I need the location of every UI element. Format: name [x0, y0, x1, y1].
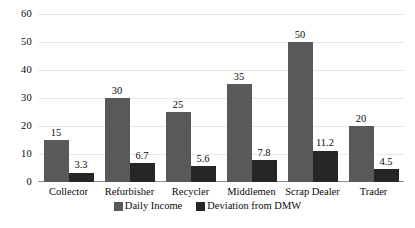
bar-slot: 3.3: [69, 14, 94, 182]
legend-label: Deviation from DMW: [207, 201, 301, 212]
y-axis-tick-label: 20: [21, 121, 32, 132]
y-axis-tick-label: 60: [21, 9, 32, 20]
legend-swatch-icon: [196, 202, 205, 211]
bar-slot: 5.6: [191, 14, 216, 182]
bar-value-label: 3.3: [74, 160, 87, 171]
bar-value-label: 7.8: [257, 148, 270, 159]
x-axis-category-label: Collector: [38, 184, 99, 200]
bar[interactable]: [105, 98, 130, 182]
bar-value-label: 4.5: [379, 157, 392, 168]
bar-value-label: 25: [173, 100, 184, 111]
bar[interactable]: [227, 84, 252, 182]
x-axis-category-label: Trader: [343, 184, 404, 200]
y-axis-tick-label: 50: [21, 37, 32, 48]
bar-slot: 4.5: [374, 14, 399, 182]
chart-legend: Daily IncomeDeviation from DMW: [0, 201, 415, 212]
legend-label: Daily Income: [125, 201, 182, 212]
bar-slot: 6.7: [130, 14, 155, 182]
bar[interactable]: [252, 160, 277, 182]
legend-item[interactable]: Daily Income: [114, 201, 182, 212]
plot-area: 153.3306.7255.6357.85011.2204.5: [38, 14, 404, 182]
bar-value-label: 20: [356, 114, 367, 125]
bar-group: 306.7: [99, 14, 160, 182]
x-axis-category-label: Scrap Dealer: [282, 184, 343, 200]
bar-value-label: 35: [234, 72, 245, 83]
bar-slot: 25: [166, 14, 191, 182]
y-axis-tick-label: 10: [21, 149, 32, 160]
bar[interactable]: [44, 140, 69, 182]
bar-value-label: 50: [295, 30, 306, 41]
y-axis: 0102030405060: [0, 14, 38, 182]
bar[interactable]: [130, 163, 155, 182]
bar-chart: 0102030405060 153.3306.7255.6357.85011.2…: [0, 0, 415, 228]
bar-groups: 153.3306.7255.6357.85011.2204.5: [38, 14, 404, 182]
x-axis-category-label: Middlemen: [221, 184, 282, 200]
x-axis-categories: CollectorRefurbisherRecyclerMiddlemenScr…: [38, 184, 404, 200]
bar[interactable]: [191, 166, 216, 182]
bar-slot: 20: [349, 14, 374, 182]
bar-value-label: 11.2: [316, 138, 334, 149]
y-axis-tick-label: 40: [21, 65, 32, 76]
bar-value-label: 6.7: [135, 151, 148, 162]
y-axis-tick-label: 30: [21, 93, 32, 104]
bar-slot: 50: [288, 14, 313, 182]
bar-slot: 7.8: [252, 14, 277, 182]
bar-group: 204.5: [343, 14, 404, 182]
x-axis-category-label: Refurbisher: [99, 184, 160, 200]
bar[interactable]: [374, 169, 399, 182]
bar-group: 357.8: [221, 14, 282, 182]
bar[interactable]: [69, 173, 94, 182]
bar-value-label: 5.6: [196, 154, 209, 165]
bar-slot: 11.2: [313, 14, 338, 182]
bar-slot: 35: [227, 14, 252, 182]
bar-group: 255.6: [160, 14, 221, 182]
bar[interactable]: [313, 151, 338, 182]
legend-item[interactable]: Deviation from DMW: [196, 201, 301, 212]
x-axis-category-label: Recycler: [160, 184, 221, 200]
legend-swatch-icon: [114, 202, 123, 211]
bar[interactable]: [288, 42, 313, 182]
bar-slot: 15: [44, 14, 69, 182]
bar[interactable]: [349, 126, 374, 182]
bar-value-label: 30: [112, 86, 123, 97]
bar-value-label: 15: [51, 128, 62, 139]
bar[interactable]: [166, 112, 191, 182]
bar-slot: 30: [105, 14, 130, 182]
bar-group: 153.3: [38, 14, 99, 182]
bar-group: 5011.2: [282, 14, 343, 182]
y-axis-tick-label: 0: [27, 177, 32, 188]
